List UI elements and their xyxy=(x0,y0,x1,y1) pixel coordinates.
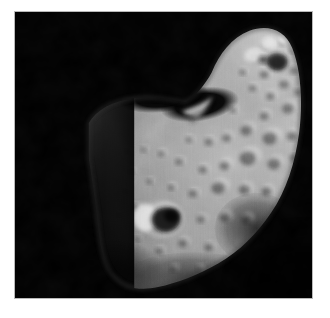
asteroid-photo-frame xyxy=(14,11,313,299)
page-root: Grayscale spacecraft photograph of a bea… xyxy=(0,0,330,318)
asteroid-photo-canvas xyxy=(15,12,312,298)
